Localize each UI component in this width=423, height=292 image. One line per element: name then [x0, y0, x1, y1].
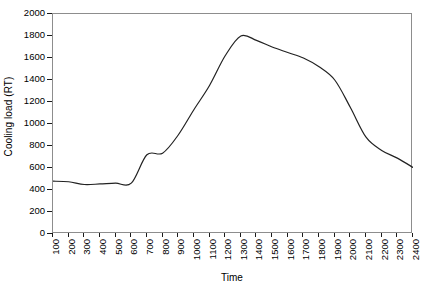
x-tick-mark	[99, 233, 100, 237]
x-tick-mark	[146, 233, 147, 237]
x-tick-label: 1300	[239, 239, 249, 260]
x-tick-label: 2000	[348, 239, 358, 260]
x-tick-mark	[224, 233, 225, 237]
x-tick-mark	[52, 233, 53, 237]
y-tick-label: 600	[14, 162, 45, 172]
x-tick-mark	[162, 233, 163, 237]
x-tick-label: 1800	[317, 239, 327, 260]
x-tick-label: 1900	[333, 239, 343, 260]
x-tick-mark	[255, 233, 256, 237]
x-tick-mark	[381, 233, 382, 237]
x-tick-label: 2200	[380, 239, 390, 260]
x-tick-mark	[318, 233, 319, 237]
y-tick-label: 2000	[14, 8, 45, 18]
plot-svg	[53, 14, 413, 234]
x-tick-label: 200	[67, 239, 77, 255]
x-tick-label: 100	[51, 239, 61, 255]
x-tick-label: 1500	[270, 239, 280, 260]
x-tick-mark	[365, 233, 366, 237]
x-tick-mark	[396, 233, 397, 237]
x-axis-tick-labels: 1002003004005006007008009001000110012001…	[52, 239, 412, 269]
y-tick-label: 1800	[14, 30, 45, 40]
x-tick-label: 1000	[192, 239, 202, 260]
x-tick-label: 1200	[223, 239, 233, 260]
x-tick-mark	[193, 233, 194, 237]
x-tick-mark	[302, 233, 303, 237]
x-tick-mark	[209, 233, 210, 237]
y-tick-label: 800	[14, 140, 45, 150]
y-tick-label: 1400	[14, 74, 45, 84]
cooling-load-line-chart: Cooling load (RT) 0200400600800100012001…	[0, 0, 423, 292]
x-tick-mark	[177, 233, 178, 237]
x-tick-mark	[115, 233, 116, 237]
y-tick-label: 400	[14, 184, 45, 194]
x-tick-label: 300	[82, 239, 92, 255]
x-tick-mark	[349, 233, 350, 237]
x-tick-label: 700	[145, 239, 155, 255]
x-tick-mark	[68, 233, 69, 237]
x-axis-title: Time	[52, 272, 412, 284]
x-tick-mark	[83, 233, 84, 237]
x-axis-tick-marks	[52, 233, 412, 238]
x-tick-label: 800	[161, 239, 171, 255]
y-axis-title-text: Cooling load (RT)	[4, 77, 15, 157]
y-tick-label: 1200	[14, 96, 45, 106]
x-tick-mark	[130, 233, 131, 237]
x-tick-label: 1700	[301, 239, 311, 260]
x-tick-label: 600	[129, 239, 139, 255]
x-tick-label: 2300	[395, 239, 405, 260]
x-tick-label: 900	[176, 239, 186, 255]
x-tick-label: 1100	[208, 239, 218, 259]
x-tick-mark	[412, 233, 413, 237]
y-tick-label: 1000	[14, 118, 45, 128]
x-tick-label: 1400	[254, 239, 264, 260]
x-tick-mark	[240, 233, 241, 237]
y-axis-tick-labels: 0200400600800100012001400160018002000	[14, 13, 45, 233]
x-tick-mark	[287, 233, 288, 237]
x-tick-label: 1600	[286, 239, 296, 260]
y-tick-label: 1600	[14, 52, 45, 62]
y-tick-label: 200	[14, 206, 45, 216]
x-tick-label: 2400	[411, 239, 421, 260]
x-tick-label: 400	[98, 239, 108, 255]
cooling-load-series-line	[53, 35, 413, 185]
x-tick-mark	[271, 233, 272, 237]
plot-area	[52, 13, 412, 233]
x-tick-label: 500	[114, 239, 124, 255]
x-tick-label: 2100	[364, 239, 374, 260]
y-tick-label: 0	[14, 228, 45, 238]
x-tick-mark	[334, 233, 335, 237]
